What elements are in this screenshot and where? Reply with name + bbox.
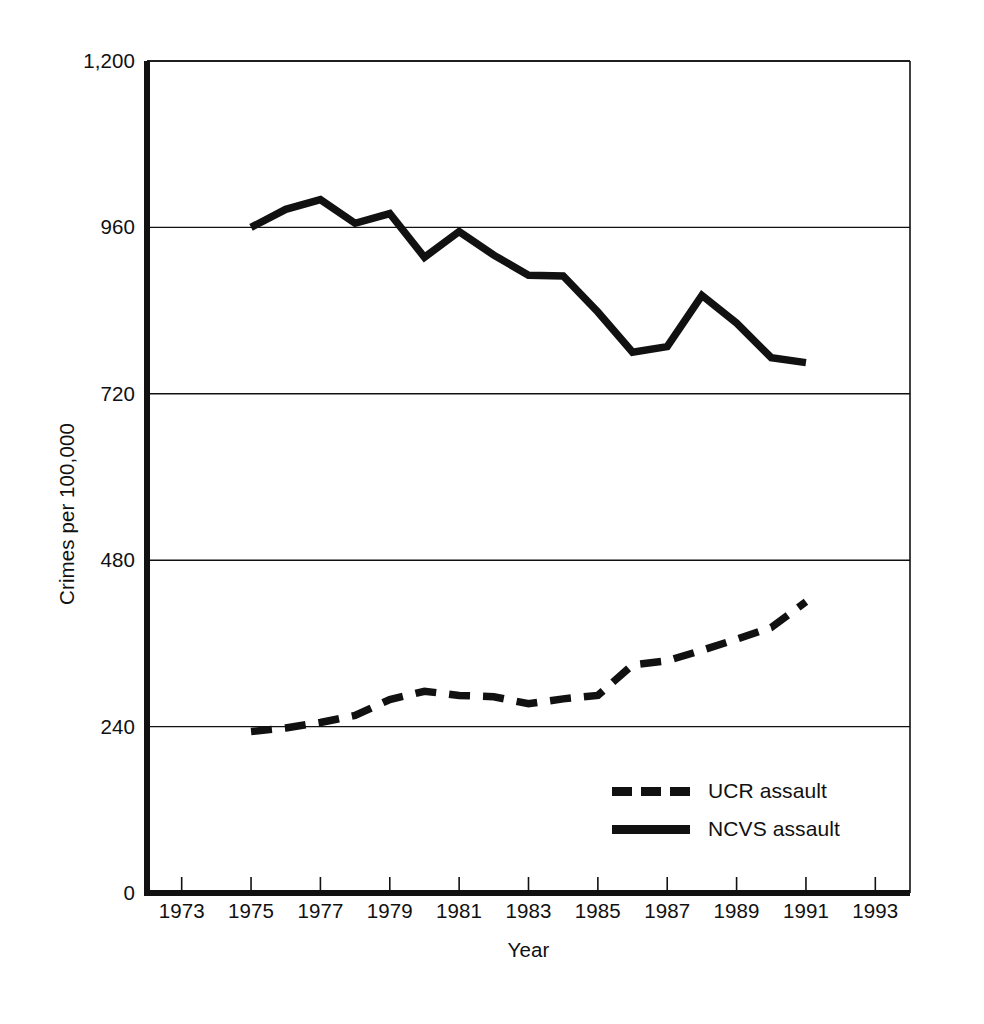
gridlines bbox=[147, 61, 910, 727]
x-tick-label: 1985 bbox=[575, 898, 621, 924]
legend-label: UCR assault bbox=[708, 779, 827, 803]
x-tick-label: 1993 bbox=[852, 898, 898, 924]
x-tick-label: 1983 bbox=[505, 898, 551, 924]
x-tick-label: 1981 bbox=[436, 898, 482, 924]
legend-swatch-dashed-icon bbox=[612, 787, 690, 796]
x-tick-label: 1977 bbox=[297, 898, 343, 924]
legend-item-ucr-assault: UCR assault bbox=[612, 772, 902, 810]
legend-label: NCVS assault bbox=[708, 817, 840, 841]
x-tick-label: 1975 bbox=[228, 898, 274, 924]
x-tick-label: 1979 bbox=[367, 898, 413, 924]
x-tick-label: 1973 bbox=[159, 898, 205, 924]
plot-area bbox=[0, 0, 984, 1024]
plot-frame bbox=[144, 61, 910, 893]
x-axis-title: Year bbox=[147, 938, 910, 962]
series-line-ncvs-assault bbox=[251, 200, 806, 363]
data-series-layer bbox=[251, 200, 806, 732]
x-tick-label: 1989 bbox=[714, 898, 760, 924]
x-axis-tick-labels: 1973197519771979198119831985198719891991… bbox=[0, 898, 984, 938]
x-tick-label: 1991 bbox=[783, 898, 829, 924]
x-tick-label: 1987 bbox=[644, 898, 690, 924]
legend-item-ncvs-assault: NCVS assault bbox=[612, 810, 902, 848]
legend-swatch-solid-icon bbox=[612, 825, 690, 834]
chart-legend: UCR assault NCVS assault bbox=[612, 772, 902, 848]
chart-figure: Crimes per 100,000 02404807209601,200 19… bbox=[0, 0, 984, 1024]
series-line-ucr-assault bbox=[251, 602, 806, 732]
